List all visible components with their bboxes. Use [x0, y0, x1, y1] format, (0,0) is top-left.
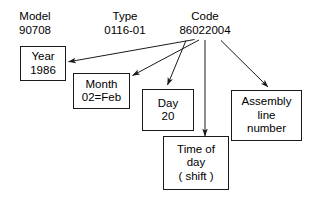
connector-code-to-month [133, 40, 200, 76]
header-model-label: Model [2, 10, 68, 24]
box-assembly-line: Assembly line number [231, 90, 302, 141]
box-month-line-1: Month [86, 78, 118, 92]
box-time-of-day-line-1: Time of [177, 143, 215, 157]
header-code-label: Code [168, 10, 242, 24]
header-type-value: 0116-01 [93, 24, 157, 38]
box-time-of-day-line-2: day [187, 156, 206, 170]
box-day: Day 20 [142, 89, 194, 131]
header-type-label: Type [93, 10, 157, 24]
box-assembly-line-line-2: line [258, 109, 276, 123]
box-day-line-2: 20 [162, 110, 175, 124]
box-month: Month 02=Feb [73, 73, 130, 109]
connector-code-to-assembly-line [221, 41, 268, 88]
header-type: Type 0116-01 [93, 10, 157, 37]
diagram-canvas: Model 90708 Type 0116-01 Code 86022004 Y… [0, 0, 321, 199]
header-model: Model 90708 [2, 10, 68, 37]
box-assembly-line-line-3: number [247, 122, 286, 136]
box-time-of-day: Time of day ( shift ) [163, 136, 229, 190]
box-year-line-2: 1986 [30, 64, 56, 78]
box-month-line-2: 02=Feb [82, 91, 121, 105]
box-year-line-1: Year [31, 50, 54, 64]
header-code-value: 86022004 [168, 24, 242, 38]
header-code: Code 86022004 [168, 10, 242, 37]
box-assembly-line-line-1: Assembly [242, 95, 292, 109]
connector-code-to-year [69, 40, 195, 62]
box-time-of-day-line-3: ( shift ) [178, 170, 213, 184]
box-day-line-1: Day [158, 97, 178, 111]
header-model-value: 90708 [2, 24, 68, 38]
connector-code-to-day [168, 41, 187, 86]
box-year: Year 1986 [20, 46, 66, 81]
